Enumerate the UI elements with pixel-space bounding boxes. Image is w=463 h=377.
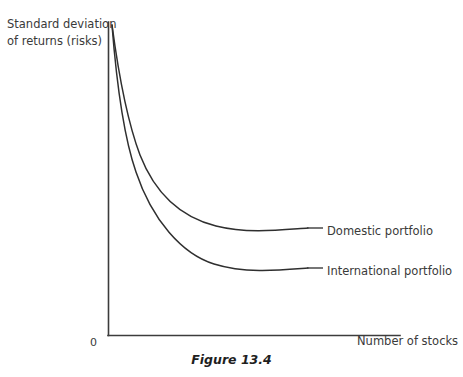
series-label-domestic-portfolio: Domestic portfolio: [327, 223, 433, 240]
series-label-international-portfolio: International portfolio: [327, 263, 452, 280]
figure-caption: Figure 13.4: [0, 352, 463, 367]
curve-international-portfolio: [112, 25, 308, 271]
y-axis-label-line1: Standard deviation: [7, 17, 116, 31]
y-axis-label: Standard deviationof returns (risks): [7, 16, 112, 50]
figure-container: Standard deviationof returns (risks) Num…: [0, 0, 463, 377]
y-axis-label-line2: of returns (risks): [7, 34, 102, 48]
curve-domestic-portfolio: [112, 25, 308, 231]
origin-tick-label: 0: [90, 334, 97, 351]
chart-plot-area: [0, 0, 463, 377]
x-axis-label: Number of stocks: [357, 333, 458, 350]
